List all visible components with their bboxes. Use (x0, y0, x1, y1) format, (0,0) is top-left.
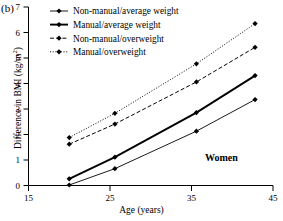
data-point-marker (194, 61, 199, 66)
data-point-marker (252, 21, 257, 26)
panel-label: (b) (1, 2, 14, 14)
data-point-marker (112, 121, 117, 126)
data-point-marker (112, 166, 117, 171)
y-axis-title: Difference in BMI (kg/m2) (11, 28, 23, 168)
data-point-marker (252, 45, 257, 50)
data-point-marker (194, 79, 199, 84)
series-line (69, 76, 255, 179)
series-line (69, 100, 255, 185)
data-point-marker (67, 135, 72, 140)
chart-figure: (b) Difference in BMI (kg/m2) Age (years… (0, 0, 283, 221)
legend-marker (56, 36, 61, 41)
y-axis-title-close: ) (13, 47, 23, 50)
legend-label: Non-manual/average weight (73, 6, 179, 16)
x-tick-label: 25 (106, 193, 116, 203)
legend-label: Non-manual/overweight (73, 34, 164, 44)
data-point-marker (67, 142, 72, 147)
data-point-marker (67, 182, 72, 187)
x-tick-label: 15 (24, 193, 34, 203)
y-axis-title-superscript: 2 (11, 50, 18, 53)
x-tick-label: 35 (187, 193, 197, 203)
legend-group: Non-manual/average weightManual/average … (50, 6, 179, 57)
data-point-marker (252, 97, 257, 102)
x-tick-label: 45 (269, 193, 279, 203)
legend-marker (56, 8, 61, 13)
legend-label: Manual/average weight (73, 20, 161, 30)
legend-label: Manual/overweight (73, 47, 146, 57)
x-tick-group: 15253545 (24, 186, 278, 204)
data-point-marker (194, 129, 199, 134)
series-line (69, 47, 255, 144)
data-point-marker (112, 111, 117, 116)
legend-marker (56, 49, 61, 54)
y-axis-title-main: Difference in BMI (kg/m (13, 54, 23, 150)
y-tick-label: 0 (16, 181, 21, 191)
plot-area: 01234567 15253545 Non-manual/average wei… (0, 0, 283, 221)
y-tick-label: 7 (16, 2, 21, 12)
chart-annotation-women: Women (205, 152, 238, 163)
legend-marker (56, 22, 61, 27)
x-axis-title: Age (years) (0, 205, 283, 215)
